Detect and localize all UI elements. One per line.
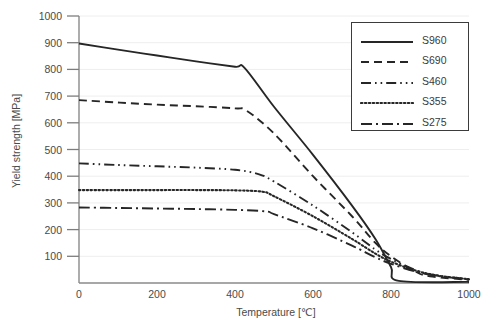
series-line-s355: [79, 190, 469, 279]
x-axis-tick-label: 800: [366, 289, 416, 300]
legend-item-label: S960: [422, 34, 447, 46]
dash-dot-dot-line-icon: [360, 75, 414, 87]
x-axis-tick-label: 400: [210, 289, 260, 300]
y-axis-tick-label: 1000: [20, 11, 62, 22]
x-axis-tick-label: 600: [288, 289, 338, 300]
legend-item-label: S690: [422, 54, 447, 66]
dash-dot-line-icon: [360, 116, 414, 128]
y-axis-tick-label: 100: [20, 251, 62, 262]
dotted-line-icon: [360, 95, 414, 107]
y-axis-tick-label: 900: [20, 38, 62, 49]
x-axis-title: Temperature [℃]: [79, 306, 473, 318]
x-axis-tick-label: 0: [54, 289, 104, 300]
y-axis-tick-label: 200: [20, 225, 62, 236]
y-axis-tick-label: 400: [20, 171, 62, 182]
y-axis-tick-label: 700: [20, 91, 62, 102]
dashed-line-icon: [360, 54, 414, 66]
y-axis-tick-label: 300: [20, 198, 62, 209]
solid-line-icon: [360, 34, 414, 46]
y-axis-tick-label: 500: [20, 145, 62, 156]
series-line-s460: [79, 163, 469, 279]
legend-item-s690[interactable]: S690: [352, 50, 470, 71]
legend-item-label: S355: [422, 95, 447, 107]
legend-item-label: S275: [422, 116, 447, 128]
y-axis-tick-label: 800: [20, 64, 62, 75]
x-axis-tick-label: 1000: [444, 289, 485, 300]
legend-item-s460[interactable]: S460: [352, 70, 470, 91]
legend: S960S690S460S355S275: [351, 22, 469, 131]
legend-item-s355[interactable]: S355: [352, 91, 470, 112]
x-axis-tick-label: 200: [132, 289, 182, 300]
y-axis-tick-label: 600: [20, 118, 62, 129]
legend-item-label: S460: [422, 75, 447, 87]
legend-item-s960[interactable]: S960: [352, 29, 470, 50]
legend-item-s275[interactable]: S275: [352, 111, 470, 132]
